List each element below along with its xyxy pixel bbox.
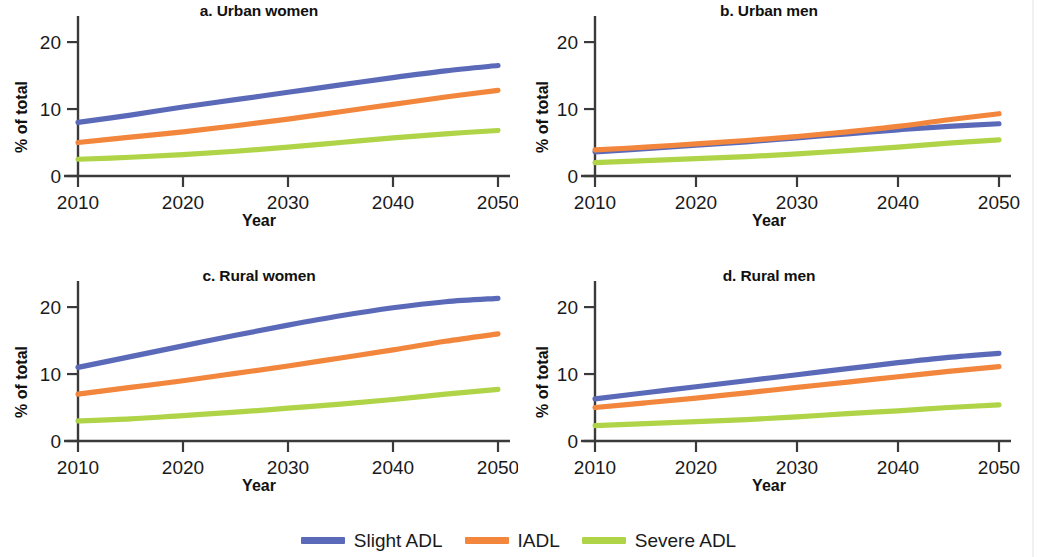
panel-rural-women: c. Rural women % of total 01020201020202…: [0, 265, 518, 527]
legend-item-severe-adl: Severe ADL: [582, 530, 736, 552]
svg-text:0: 0: [567, 431, 578, 452]
svg-text:2020: 2020: [162, 192, 204, 213]
svg-text:2010: 2010: [574, 457, 616, 478]
svg-text:2020: 2020: [675, 192, 717, 213]
svg-text:0: 0: [50, 166, 61, 187]
x-axis-label-b: Year: [519, 212, 1019, 230]
x-axis-label-c: Year: [0, 477, 518, 495]
svg-text:2020: 2020: [162, 457, 204, 478]
svg-text:10: 10: [40, 99, 61, 120]
x-axis-label-d: Year: [519, 477, 1019, 495]
svg-text:2030: 2030: [776, 457, 818, 478]
svg-text:2010: 2010: [57, 192, 99, 213]
svg-text:2030: 2030: [267, 457, 309, 478]
svg-text:2050: 2050: [978, 192, 1020, 213]
svg-text:0: 0: [50, 431, 61, 452]
svg-text:2050: 2050: [477, 457, 518, 478]
panel-rural-men: d. Rural men % of total 0102020102020203…: [519, 265, 1037, 527]
svg-text:20: 20: [40, 297, 61, 318]
svg-text:2020: 2020: [675, 457, 717, 478]
svg-text:2010: 2010: [574, 192, 616, 213]
legend-item-slight-adl: Slight ADL: [301, 530, 443, 552]
chart-legend: Slight ADL IADL Severe ADL: [0, 524, 1037, 557]
legend-swatch-severe-adl: [582, 537, 626, 544]
legend-swatch-iadl: [465, 537, 509, 544]
svg-text:20: 20: [557, 32, 578, 53]
x-axis-label-a: Year: [0, 212, 518, 230]
figure-panel-grid: a. Urban women % of total 01020201020202…: [0, 0, 1037, 557]
panel-urban-women: a. Urban women % of total 01020201020202…: [0, 0, 518, 262]
svg-text:2050: 2050: [477, 192, 518, 213]
scan-edge-artifact: [1032, 0, 1034, 557]
legend-label-slight-adl: Slight ADL: [354, 530, 443, 552]
panel-urban-men: b. Urban men % of total 0102020102020203…: [519, 0, 1037, 262]
svg-text:20: 20: [557, 297, 578, 318]
svg-text:2010: 2010: [57, 457, 99, 478]
svg-text:2040: 2040: [372, 192, 414, 213]
svg-text:2040: 2040: [877, 192, 919, 213]
legend-label-iadl: IADL: [518, 530, 560, 552]
svg-text:10: 10: [557, 99, 578, 120]
svg-text:2040: 2040: [372, 457, 414, 478]
svg-text:2030: 2030: [267, 192, 309, 213]
legend-label-severe-adl: Severe ADL: [635, 530, 736, 552]
svg-text:0: 0: [567, 166, 578, 187]
legend-swatch-slight-adl: [301, 537, 345, 544]
svg-text:20: 20: [40, 32, 61, 53]
svg-text:2030: 2030: [776, 192, 818, 213]
legend-item-iadl: IADL: [465, 530, 560, 552]
svg-text:10: 10: [40, 364, 61, 385]
svg-text:2040: 2040: [877, 457, 919, 478]
svg-text:2050: 2050: [978, 457, 1020, 478]
svg-text:10: 10: [557, 364, 578, 385]
